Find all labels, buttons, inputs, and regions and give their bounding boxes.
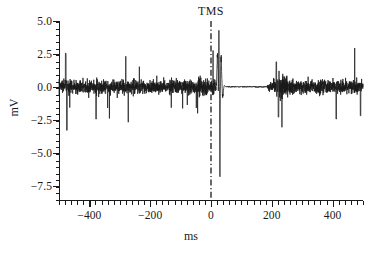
emg-trace-plot bbox=[0, 0, 382, 253]
emg-tms-figure: 5.02.50.0−2.5−5.0−7.5 −400−2000200400 ms… bbox=[0, 0, 382, 253]
